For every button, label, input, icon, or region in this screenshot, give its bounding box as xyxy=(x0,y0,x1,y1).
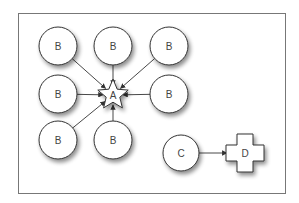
node-label: B xyxy=(166,41,173,52)
node-d: D xyxy=(226,134,264,172)
node-label: B xyxy=(166,89,173,100)
node-label: B xyxy=(55,135,62,146)
edge-b1-to-a xyxy=(72,59,105,89)
node-label: A xyxy=(110,90,117,101)
node-label: B xyxy=(110,135,117,146)
node-b3: B xyxy=(150,27,188,65)
node-label: C xyxy=(177,148,184,159)
nodes-layer: BBBBABBBCD xyxy=(39,27,264,172)
node-b7: B xyxy=(94,121,132,159)
edge-b3-to-a xyxy=(120,59,154,89)
node-b1: B xyxy=(39,27,77,65)
diagram-canvas: BBBBABBBCD xyxy=(0,0,299,203)
edge-b6-to-a xyxy=(73,101,106,128)
node-label: B xyxy=(110,41,117,52)
node-label: D xyxy=(241,148,248,159)
node-b6: B xyxy=(39,121,77,159)
node-label: B xyxy=(55,89,62,100)
node-b2: B xyxy=(94,27,132,65)
node-label: B xyxy=(55,41,62,52)
node-b4: B xyxy=(39,75,77,113)
node-c: C xyxy=(163,135,199,171)
node-b5: B xyxy=(150,75,188,113)
